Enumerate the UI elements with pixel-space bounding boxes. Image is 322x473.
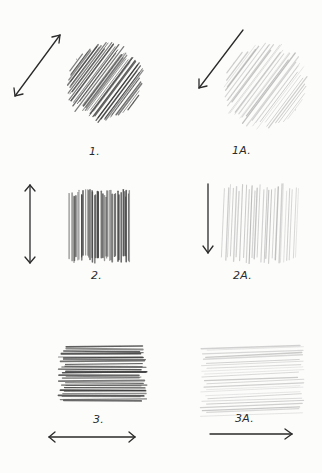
hatch-2a-light-vertical: [221, 184, 298, 264]
hatch-3a-light-horizontal: [201, 346, 304, 417]
arrow-1a-down-left-icon: [199, 30, 243, 88]
arrow-2-double-vertical-icon: [25, 185, 35, 263]
label-2a: 2A.: [233, 269, 252, 282]
hatch-3-dark-horizontal: [59, 346, 147, 401]
hatch-1-dark-diagonal: [68, 43, 143, 123]
label-1a: 1A.: [232, 144, 251, 157]
label-3: 3.: [93, 413, 104, 426]
hatch-1a-light-diagonal: [224, 43, 307, 129]
arrow-2a-down-icon: [203, 184, 213, 253]
arrow-3-double-horizontal-icon: [49, 432, 135, 442]
hatching-sketch: 1. 1A. 2. 2A. 3. 3A.: [0, 0, 322, 473]
sketch-drawing: [0, 0, 322, 473]
arrow-3a-right-icon: [210, 429, 292, 439]
label-3a: 3A.: [235, 412, 254, 425]
label-2: 2.: [91, 269, 102, 282]
label-1: 1.: [89, 145, 100, 158]
arrow-1-double-diagonal-icon: [14, 35, 60, 96]
hatch-2-dark-vertical: [69, 190, 129, 263]
